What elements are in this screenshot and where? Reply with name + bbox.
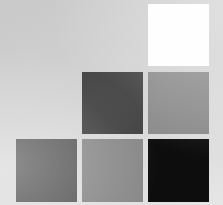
swatch-canvas: [0, 0, 223, 205]
swatch-medium-gray-r3c2: [82, 139, 143, 202]
swatch-medium-gray-r2c3: [148, 72, 209, 134]
swatch-white-r1c3: [148, 4, 209, 66]
swatch-black-r3c3: [148, 139, 209, 202]
swatch-dark-gray-r2c2: [82, 72, 143, 134]
swatch-dark-gray-r3c1: [16, 139, 77, 202]
